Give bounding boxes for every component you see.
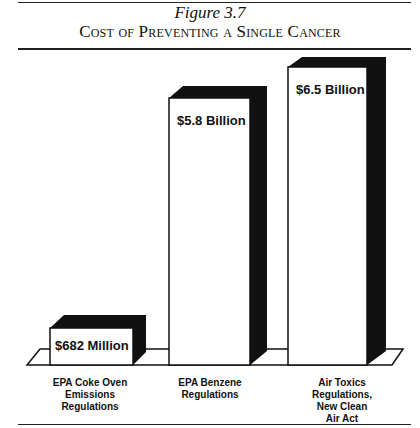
category-label-benzene: EPA Benzene Regulations — [160, 377, 260, 401]
bar3-value-label: $6.5 Billion — [296, 82, 365, 97]
category-label-air-toxics: Air Toxics Regulations, New Clean Air Ac… — [292, 377, 392, 425]
category-label-coke-oven: EPA Coke Oven Emissions Regulations — [40, 377, 140, 413]
bar-air-toxics — [288, 57, 386, 365]
bar1-value-label: $682 Million — [55, 338, 129, 353]
bottom-rule — [18, 424, 411, 425]
bar2-value-label: $5.8 Billion — [177, 113, 246, 128]
bar-chart — [0, 0, 420, 428]
